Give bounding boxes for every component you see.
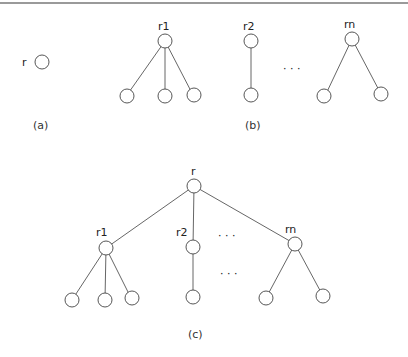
node-label-r2: r2 [243, 20, 255, 33]
node-r2 [186, 240, 200, 254]
node-leaf [98, 293, 112, 307]
node-leaf [316, 289, 330, 303]
node-label-rn: rn [344, 18, 355, 31]
node-leaf [187, 88, 201, 102]
caption-b: (b) [245, 119, 261, 132]
node-label-r: r [22, 56, 27, 69]
caption-a: (a) [33, 119, 48, 132]
node-rn [345, 32, 359, 46]
node-label-r: r [191, 165, 196, 178]
node-leaf [65, 293, 79, 307]
ellipsis: · · · [218, 229, 235, 242]
tree-diagram: r (a) r1 r2 · · · rn (b) [0, 0, 408, 357]
node-r2 [244, 34, 258, 48]
node-leaf [259, 291, 273, 305]
node-leaf [125, 291, 139, 305]
node-leaf [244, 88, 258, 102]
node-label-r1: r1 [158, 20, 170, 33]
node-label-r2: r2 [176, 226, 188, 239]
panel-a: r (a) [22, 55, 49, 132]
node-r1 [99, 241, 113, 255]
node-r1 [158, 34, 172, 48]
panel-b: r1 r2 · · · rn (b) [120, 18, 388, 132]
node-leaf [158, 89, 172, 103]
node-leaf [374, 87, 388, 101]
caption-c: (c) [188, 328, 203, 341]
ellipsis: · · · [283, 62, 300, 75]
node-label-r1: r1 [96, 226, 108, 239]
ellipsis: · · · [220, 267, 237, 280]
node-rn [288, 237, 302, 251]
node-r [187, 179, 201, 193]
node-leaf [186, 290, 200, 304]
node-leaf [317, 89, 331, 103]
node-leaf [120, 89, 134, 103]
node-label-rn: rn [285, 223, 296, 236]
panel-c: r r1 r2 rn · · · · · · (c) [65, 165, 330, 341]
node-r [35, 55, 49, 69]
